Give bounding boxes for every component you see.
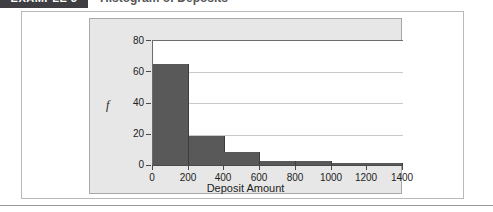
y-tick-mark-80 <box>146 40 151 41</box>
x-tick-mark-1200 <box>366 166 367 170</box>
page-bottom-rule <box>0 205 493 206</box>
y-tick-label-80: 80 <box>122 36 144 46</box>
y-axis-title: f <box>106 98 109 113</box>
figure-card: f 80 60 40 20 0 <box>21 11 464 199</box>
x-tick-mark-1000 <box>331 166 332 170</box>
y-tick-label-40: 40 <box>122 98 144 108</box>
y-tick-mark-40 <box>146 103 151 104</box>
x-tick-mark-800 <box>295 166 296 170</box>
y-tick-label-0: 0 <box>122 160 144 170</box>
histogram-bar <box>224 152 260 166</box>
x-tick-mark-0 <box>152 166 153 170</box>
page-title: Histogram of Deposits <box>100 0 228 8</box>
example-banner: EXAMPLE 3 <box>0 0 88 8</box>
x-tick-mark-600 <box>259 166 260 170</box>
y-tick-label-60: 60 <box>122 67 144 77</box>
histogram-bar <box>153 64 189 166</box>
gridline-40 <box>153 103 403 104</box>
plot-area <box>152 40 403 166</box>
y-tick-mark-20 <box>146 134 151 135</box>
histogram-bar <box>189 136 225 166</box>
x-axis-title: Deposit Amount <box>90 182 401 194</box>
y-axis-tick-labels: 80 60 40 20 0 <box>118 19 144 195</box>
x-tick-mark-1400 <box>402 166 403 170</box>
histogram-chart: f 80 60 40 20 0 <box>89 18 402 194</box>
x-tick-mark-400 <box>223 166 224 170</box>
y-tick-label-20: 20 <box>122 129 144 139</box>
gridline-60 <box>153 72 403 73</box>
y-tick-mark-0 <box>146 165 151 166</box>
header-strip: EXAMPLE 3 Histogram of Deposits <box>0 0 493 9</box>
x-tick-mark-200 <box>188 166 189 170</box>
y-tick-mark-60 <box>146 71 151 72</box>
